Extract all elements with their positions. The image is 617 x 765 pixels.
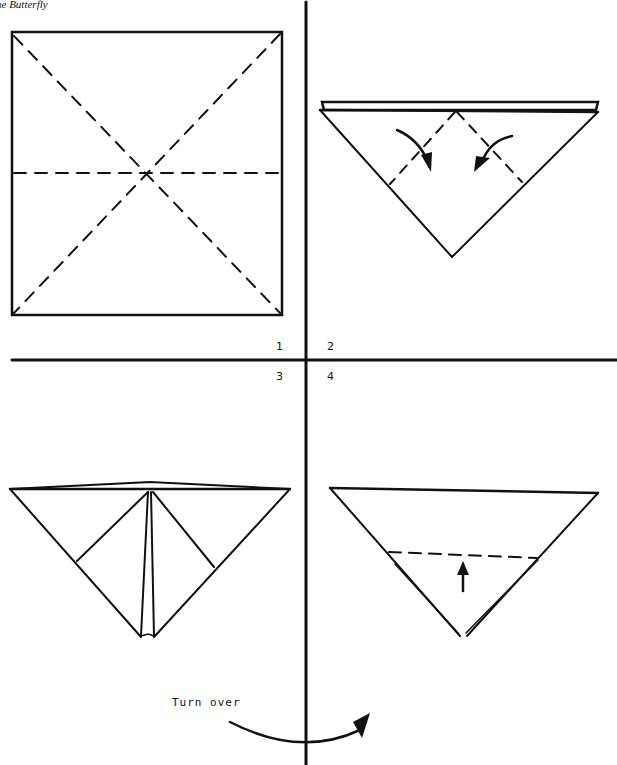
- step-number-1: 1: [276, 340, 283, 353]
- step-4-triangle: [330, 488, 598, 636]
- origami-diagram: [0, 0, 617, 765]
- step-number-4: 4: [327, 370, 334, 383]
- step-2-triangle: [320, 102, 598, 257]
- turn-over-arrow: [230, 713, 370, 742]
- turn-over-label: Turn over: [172, 696, 241, 709]
- step-1-square: [12, 32, 282, 315]
- step-number-3: 3: [276, 370, 283, 383]
- step-number-2: 2: [327, 340, 334, 353]
- step-3-triangle: [10, 482, 290, 637]
